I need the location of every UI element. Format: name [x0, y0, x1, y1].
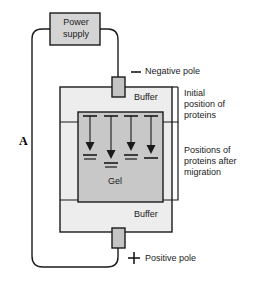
leader-initial-bracket: [172, 87, 178, 122]
diagram-canvas: [0, 0, 255, 281]
circuit-label-a: A: [19, 136, 28, 147]
annotation-leaders: [172, 87, 178, 200]
initial-position-line1: Initial: [184, 88, 205, 99]
power-supply-label-line2: supply: [58, 29, 94, 40]
after-migration-line3: migration: [184, 167, 221, 178]
after-migration-line2: proteins after: [184, 156, 237, 167]
negative-pole-label: Negative pole: [145, 66, 200, 77]
initial-position-line3: proteins: [184, 110, 216, 121]
wire-right-negative: [100, 29, 118, 78]
gel-electrophoresis-diagram: Power supply Negative pole Positive pole…: [0, 0, 255, 281]
positive-sign-icon: [128, 252, 140, 264]
initial-position-line2: position of: [184, 99, 225, 110]
positive-electrode: [112, 228, 125, 248]
after-migration-line1: Positions of: [184, 145, 231, 156]
positive-pole-label: Positive pole: [145, 253, 196, 264]
power-supply-label-line1: Power: [58, 17, 94, 28]
negative-electrode: [112, 77, 125, 97]
buffer-label-bottom: Buffer: [134, 209, 158, 220]
gel-label: Gel: [108, 176, 122, 187]
leader-migration-bracket: [172, 122, 178, 200]
buffer-label-top: Buffer: [134, 92, 158, 103]
gel-block: [78, 112, 163, 202]
